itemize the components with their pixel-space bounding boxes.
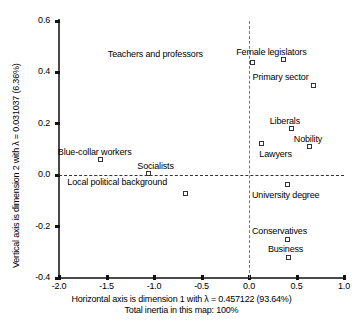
y-axis-title: Vertical axis is dimension 2 with λ = 0.… bbox=[11, 63, 22, 268]
x-axis-subtitle: Total inertia in this map: 100% bbox=[0, 305, 363, 316]
x-tick-label: 1.0 bbox=[324, 282, 363, 291]
y-tick-label: 0.0 bbox=[24, 170, 50, 179]
data-point-label: University degree bbox=[252, 190, 319, 200]
data-point-label: Lawyers bbox=[259, 149, 291, 159]
data-point-label: Primary sector bbox=[253, 72, 309, 82]
data-point-label: Conservatives bbox=[252, 226, 307, 236]
data-point-label: Nobility bbox=[294, 134, 322, 144]
data-point-label: Socialists bbox=[137, 161, 174, 171]
data-point-marker[interactable] bbox=[285, 182, 290, 187]
data-point-marker[interactable] bbox=[281, 57, 286, 62]
y-tick-label: 0.4 bbox=[24, 67, 50, 76]
correspondence-analysis-plot: 0.60.40.20.0-0.2-0.4 -2.0-1.5-1.0-0.50.0… bbox=[0, 0, 363, 329]
data-point-marker[interactable] bbox=[307, 144, 312, 149]
data-point-marker[interactable] bbox=[259, 141, 264, 146]
data-point-marker[interactable] bbox=[286, 255, 291, 260]
data-point-label: Female legislators bbox=[236, 47, 306, 57]
data-point-marker[interactable] bbox=[311, 83, 316, 88]
x-tick-label: 0.0 bbox=[229, 282, 269, 291]
x-tick-label: 0.5 bbox=[277, 282, 317, 291]
x-axis-title: Horizontal axis is dimension 1 with λ = … bbox=[0, 294, 363, 305]
data-point-label: Business bbox=[268, 244, 303, 254]
x-tick-label: -1.5 bbox=[87, 282, 127, 291]
data-point-marker[interactable] bbox=[183, 191, 188, 196]
x-tick-label: -0.5 bbox=[182, 282, 222, 291]
x-tick-label: -2.0 bbox=[39, 282, 79, 291]
data-point-marker[interactable] bbox=[98, 157, 103, 162]
data-point-marker[interactable] bbox=[289, 126, 294, 131]
y-tick-label: -0.2 bbox=[24, 222, 50, 231]
data-point-label: Liberals bbox=[270, 116, 300, 126]
data-point-marker[interactable] bbox=[285, 237, 290, 242]
y-tick-label: 0.6 bbox=[24, 16, 50, 25]
y-tick-label: 0.2 bbox=[24, 119, 50, 128]
data-point-label: Teachers and professors bbox=[108, 49, 203, 59]
x-tick-label: -1.0 bbox=[134, 282, 174, 291]
y-tick-label: -0.4 bbox=[24, 273, 50, 282]
data-point-label: Blue-collar workers bbox=[58, 147, 132, 157]
data-point-label: Local political background bbox=[67, 177, 167, 187]
data-point-marker[interactable] bbox=[250, 60, 255, 65]
data-point-marker[interactable] bbox=[146, 171, 151, 176]
data-points-layer: Teachers and professorsFemale legislator… bbox=[59, 21, 344, 278]
